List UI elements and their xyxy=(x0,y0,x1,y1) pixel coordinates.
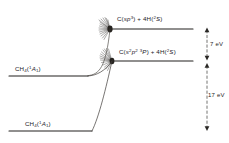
level-label-c-s2p2-prefix: C( xyxy=(119,48,126,55)
level-label-ch4-lower: CH4(1A1) xyxy=(25,121,51,129)
level-label-ch4-lower-paren-close: ) xyxy=(49,120,51,127)
energy-gap-label-7ev: 7 eV xyxy=(210,41,223,47)
level-label-c-s2p2-suffix: ) xyxy=(174,48,176,55)
level-label-c-sp3: C(sp3) + 4H(2S) xyxy=(117,16,163,22)
energy-level-diagram: C(sp3) + 4H(2S) C(s2p2 3P) + 4H(2S) CH4(… xyxy=(0,0,229,143)
energy-gap-label-17ev: 17 eV xyxy=(208,92,225,98)
level-label-c-sp3-orbital: sp xyxy=(124,15,131,22)
level-label-ch4-upper-paren-close: ) xyxy=(39,65,41,72)
connector-upper-outer xyxy=(88,29,110,76)
level-label-c-s2p2: C(s2p2 3P) + 4H(2S) xyxy=(119,49,176,55)
level-label-c-sp3-mid: ) + 4H( xyxy=(133,15,153,22)
energy-arrow-7ev xyxy=(205,28,210,61)
level-label-ch4-upper-species: CH xyxy=(15,65,24,72)
level-label-c-s2p2-mid: ) + 4H( xyxy=(147,48,167,55)
level-label-c-sp3-prefix: C( xyxy=(117,15,124,22)
level-label-c-s2p2-orbital2-sup: 2 xyxy=(135,48,138,53)
level-label-ch4-upper: CH4(1A1) xyxy=(15,66,41,74)
level-label-ch4-lower-species: CH xyxy=(25,120,34,127)
level-label-c-sp3-suffix: ) xyxy=(160,15,162,22)
